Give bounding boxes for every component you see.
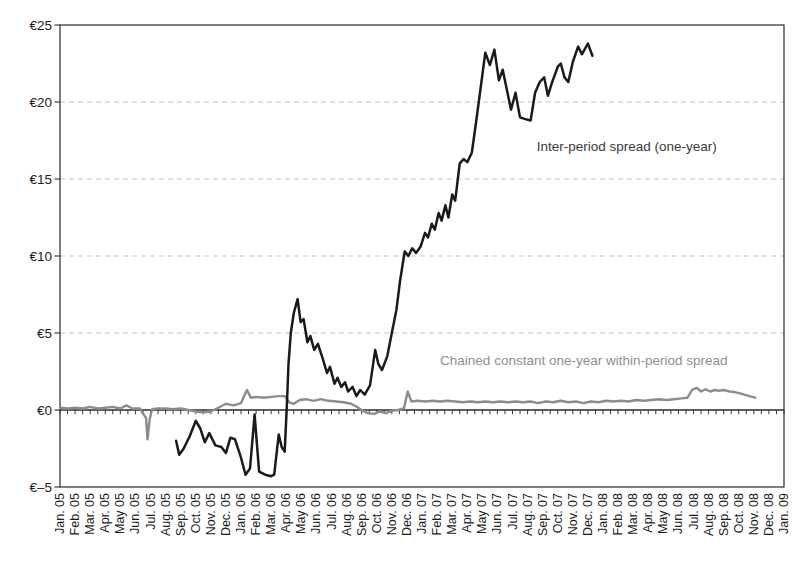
x-axis-label: Mar. 07 [445,493,459,535]
y-gridlines [60,102,784,333]
x-axis-label: Feb. 05 [68,493,82,535]
x-axis-label: May 06 [294,493,308,534]
spread-chart: €–5€0€5€10€15€20€25Jan. 05Feb. 05Mar. 05… [0,0,811,564]
x-axis-label: Apr. 07 [460,493,474,533]
x-axis-label: Oct. 07 [551,493,565,533]
x-axis-label: May 07 [475,493,489,534]
x-axis-label: Feb. 06 [249,493,263,535]
x-axis-label: Jan. 07 [415,493,429,534]
x-axis-label: Nov. 06 [385,493,399,535]
series-annotations: Inter-period spread (one-year)Chained co… [440,139,727,368]
y-axis-label: €25 [29,18,52,33]
x-axis-label: Jul. 08 [687,493,701,530]
x-axis-label: Aug. 06 [340,493,354,536]
x-axis-label: Sep. 05 [174,493,188,536]
x-axis-label: Jun. 05 [128,493,142,534]
x-axis-label: Mar. 05 [83,493,97,535]
x-axis-label: Nov. 07 [566,493,580,535]
x-axis-label: Sep. 08 [717,493,731,536]
x-axis-label: Dec. 08 [762,493,776,536]
x-axis-label: Oct. 08 [732,493,746,533]
x-axis-label: Sep. 07 [536,493,550,536]
x-axis-label: Aug. 07 [521,493,535,536]
series-within-period-line [60,388,755,440]
x-axis-label: Jul. 05 [144,493,158,530]
y-axis-label: €5 [37,326,52,341]
x-axis-label: Nov. 08 [747,493,761,535]
x-axis-label: Apr. 05 [98,493,112,533]
figure-container: €–5€0€5€10€15€20€25Jan. 05Feb. 05Mar. 05… [0,0,811,564]
annotation-within-period: Chained constant one-year within-period … [440,353,727,368]
x-axis-label: Jan. 08 [596,493,610,534]
y-axis-label: €0 [37,403,52,418]
x-axis-label: Jun. 06 [309,493,323,534]
x-axis-label: Apr. 08 [641,493,655,533]
x-axis-label: Oct. 05 [189,493,203,533]
y-axis-label: €20 [29,95,52,110]
x-axis-labels: Jan. 05Feb. 05Mar. 05Apr. 05May 05Jun. 0… [53,493,791,536]
x-axis-label: Aug. 08 [702,493,716,536]
x-axis-label: Jun. 08 [671,493,685,534]
x-axis-label: Dec. 07 [581,493,595,536]
x-axis-label: Jan. 09 [777,493,791,534]
x-axis-label: May 08 [656,493,670,534]
annotation-inter-period: Inter-period spread (one-year) [537,139,717,154]
x-axis-label: Oct. 06 [370,493,384,533]
x-axis-label: Dec. 05 [219,493,233,536]
x-axis-label: Feb. 08 [611,493,625,535]
x-axis-label: Mar. 08 [626,493,640,535]
x-axis-label: Apr. 06 [279,493,293,533]
x-axis-label: Nov. 05 [204,493,218,535]
x-axis-label: Dec. 06 [400,493,414,536]
y-axis-labels: €–5€0€5€10€15€20€25 [29,18,60,495]
x-axis-label: Feb. 07 [430,493,444,535]
x-axis-label: Jul. 07 [506,493,520,530]
y-axis-label: €15 [29,172,52,187]
x-axis-label: Aug. 05 [159,493,173,536]
x-axis-label: Sep. 06 [355,493,369,536]
x-axis-label: Jan. 05 [53,493,67,534]
x-axis-label: May 05 [113,493,127,534]
x-axis-label: Jun. 07 [490,493,504,534]
x-axis-label: Jul. 06 [325,493,339,530]
y-axis-label: €10 [29,249,52,264]
x-axis-label: Mar. 06 [264,493,278,535]
y-axis-label: €–5 [29,480,52,495]
x-axis-label: Jan. 06 [234,493,248,534]
